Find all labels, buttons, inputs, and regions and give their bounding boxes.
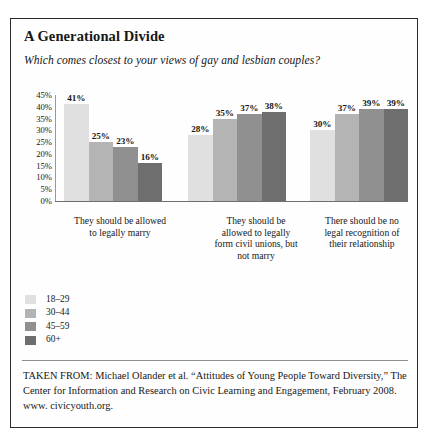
figure-frame: A Generational Divide Which comes closes… <box>10 18 418 428</box>
x-axis-category-label: They should beallowed to legallyform civ… <box>200 215 312 277</box>
bar: 30% <box>310 130 335 201</box>
legend-swatch <box>25 322 36 331</box>
y-axis-tick-label: 0% <box>41 197 52 206</box>
y-axis-tick-label: 40% <box>36 102 52 111</box>
bar-column: 16% <box>138 95 163 201</box>
legend-label: 30–44 <box>46 308 69 317</box>
bar-column: 28% <box>188 95 213 201</box>
bar-value-label: 30% <box>313 119 331 129</box>
x-axis-category-labels: They should be allowedto legally marryTh… <box>22 215 412 277</box>
bar-value-label: 38% <box>265 101 283 111</box>
bar-value-label: 25% <box>92 131 110 141</box>
category-label-line: form civil unions, but <box>202 238 310 250</box>
bar: 37% <box>237 114 262 201</box>
legend-label: 45–59 <box>46 322 69 331</box>
bar-column: 30% <box>310 95 335 201</box>
legend-item: 18–29 <box>25 293 185 306</box>
legend-label: 18–29 <box>46 295 69 304</box>
category-label-line: allowed to legally <box>202 227 310 239</box>
bar-value-label: 37% <box>240 103 258 113</box>
figure-inner: A Generational Divide Which comes closes… <box>11 19 417 427</box>
bar: 35% <box>213 119 238 201</box>
bar-group: 28%35%37%38% <box>188 95 286 201</box>
bar: 39% <box>359 109 384 201</box>
category-label-line: They should be <box>202 215 310 227</box>
legend-swatch <box>25 295 36 304</box>
bar-column: 39% <box>359 95 384 201</box>
x-axis-line <box>55 201 408 202</box>
chart-plot-area: 0%5%10%15%20%25%30%35%40%45% 41%25%23%16… <box>22 95 408 213</box>
bar-group: 41%25%23%16% <box>64 95 162 201</box>
legend-label: 60+ <box>46 335 61 344</box>
y-axis-tick-label: 20% <box>36 150 52 159</box>
legend-item: 60+ <box>25 334 185 347</box>
bar-value-label: 39% <box>387 98 405 108</box>
legend-item: 30–44 <box>25 307 185 320</box>
y-axis-tick-label: 45% <box>36 91 52 100</box>
x-axis-category-label: They should be allowedto legally marry <box>44 215 196 277</box>
bar-value-label: 28% <box>191 124 209 134</box>
bar-value-label: 37% <box>338 103 356 113</box>
bar: 28% <box>188 135 213 201</box>
y-axis-line <box>55 95 56 201</box>
category-label-line: legal recognition of <box>314 227 410 239</box>
bar-column: 39% <box>384 95 409 201</box>
page-title: A Generational Divide <box>24 29 406 45</box>
y-axis-tick-label: 10% <box>36 173 52 182</box>
legend-swatch <box>25 309 36 318</box>
bar-value-label: 41% <box>67 93 85 103</box>
category-label-line: not marry <box>202 250 310 262</box>
source-divider <box>22 360 408 361</box>
bar: 38% <box>262 112 287 202</box>
bar: 41% <box>64 104 89 201</box>
category-label-line: There should be no <box>314 215 410 227</box>
y-axis-tick-label: 5% <box>41 185 52 194</box>
bar: 25% <box>89 142 114 201</box>
bar-column: 35% <box>213 95 238 201</box>
bar: 23% <box>113 147 138 201</box>
bar: 39% <box>384 109 409 201</box>
bar-group: 30%37%39%39% <box>310 95 408 201</box>
x-axis-category-label: There should be nolegal recognition ofth… <box>312 215 412 277</box>
bar-column: 41% <box>64 95 89 201</box>
y-axis-tick-label: 30% <box>36 126 52 135</box>
category-label-line: their relationship <box>314 238 410 250</box>
bar-column: 38% <box>262 95 287 201</box>
bar-value-label: 16% <box>141 152 159 162</box>
bar-column: 37% <box>335 95 360 201</box>
source-note: TAKEN FROM: Michael Olander et al. “Atti… <box>23 369 407 413</box>
bar-column: 23% <box>113 95 138 201</box>
legend-swatch <box>25 336 36 345</box>
bar-groups: 41%25%23%16%28%35%37%38%30%37%39%39% <box>58 95 408 201</box>
category-label-line: They should be allowed <box>46 215 194 227</box>
bar-value-label: 35% <box>216 108 234 118</box>
y-axis: 0%5%10%15%20%25%30%35%40%45% <box>22 95 52 201</box>
bar-column: 37% <box>237 95 262 201</box>
bar-value-label: 39% <box>362 98 380 108</box>
chart-question: Which comes closest to your views of gay… <box>24 55 406 68</box>
bar: 16% <box>138 163 163 201</box>
bar-value-label: 23% <box>116 136 134 146</box>
chart-legend: 18–2930–4445–5960+ <box>25 293 185 347</box>
bar-column: 25% <box>89 95 114 201</box>
y-axis-tick-label: 15% <box>36 161 52 170</box>
bar: 37% <box>335 114 360 201</box>
y-axis-tick-label: 25% <box>36 138 52 147</box>
legend-item: 45–59 <box>25 320 185 333</box>
y-axis-tick-label: 35% <box>36 114 52 123</box>
category-label-line: to legally marry <box>46 227 194 239</box>
